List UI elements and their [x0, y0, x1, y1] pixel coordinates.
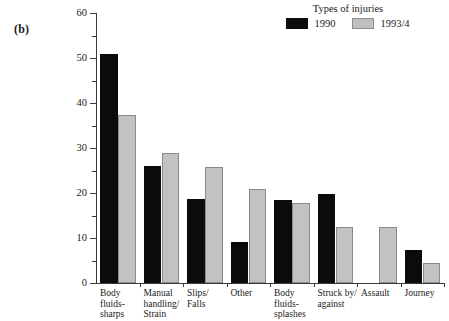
x-tick [183, 283, 184, 287]
x-tick [401, 283, 402, 287]
bar-1993-4-7 [423, 263, 441, 283]
category-labels: Body fluids- sharpsManual handling/ Stra… [96, 288, 444, 321]
bar-group [96, 13, 140, 283]
bars-container [96, 13, 444, 283]
x-tick [444, 283, 445, 287]
bar-group [270, 13, 314, 283]
category-label-6: Assault [361, 288, 405, 299]
x-tick [140, 283, 141, 287]
bar-group [140, 13, 184, 283]
y-tick-label: 50 [77, 53, 88, 63]
bar-1990-1 [144, 166, 162, 283]
bar-1993-4-4 [292, 203, 310, 283]
category-label-4: Body fluids- splashes [274, 288, 318, 320]
bar-group [314, 13, 358, 283]
y-tick-label: 40 [77, 98, 88, 108]
bar-chart-figure: (b) Types of injuries 1990 1993/4 Rate p… [0, 0, 449, 321]
y-tick-label: 0 [82, 278, 87, 288]
bar-group [401, 13, 445, 283]
plot-area: Rate per 1000 employees 0102030405060 [96, 13, 444, 283]
bar-1993-4-6 [379, 227, 397, 283]
y-tick-label: 20 [77, 188, 88, 198]
x-tick [227, 283, 228, 287]
bar-1993-4-2 [205, 167, 223, 283]
category-label-2: Slips/ Falls [187, 288, 231, 309]
panel-label: (b) [14, 22, 29, 37]
y-tick-label: 30 [77, 143, 88, 153]
y-tick-label: 60 [77, 8, 88, 18]
x-tick [270, 283, 271, 287]
category-label-0: Body fluids- sharps [100, 288, 144, 320]
bar-1993-4-5 [336, 227, 354, 283]
bar-group [357, 13, 401, 283]
y-tick-major [90, 283, 96, 284]
bar-1990-4 [274, 200, 292, 283]
bar-1990-0 [100, 54, 118, 284]
bar-1990-3 [231, 242, 249, 283]
x-tick [357, 283, 358, 287]
category-label-3: Other [231, 288, 275, 299]
bar-group [183, 13, 227, 283]
category-label-1: Manual handling/ Strain [144, 288, 188, 320]
bar-1990-2 [187, 199, 205, 283]
bar-1993-4-3 [249, 189, 267, 284]
bar-1990-5 [318, 194, 336, 283]
bar-1993-4-1 [162, 153, 180, 284]
y-tick-label: 10 [77, 233, 88, 243]
bar-1993-4-0 [118, 115, 136, 283]
category-label-5: Struck by/ against [318, 288, 362, 309]
bar-group [227, 13, 271, 283]
x-tick [314, 283, 315, 287]
bar-1990-7 [405, 250, 423, 283]
category-label-7: Journey [405, 288, 449, 299]
